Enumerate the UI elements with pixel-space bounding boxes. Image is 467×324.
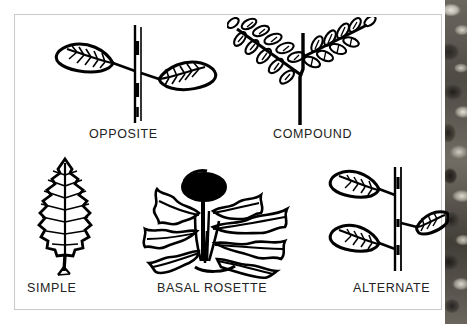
simple-leaf-drawing [19, 155, 115, 277]
illustration-page: OPPOSITE [0, 0, 467, 324]
photo-strip [445, 0, 467, 324]
caption-opposite: OPPOSITE [89, 127, 158, 141]
caption-alternate: ALTERNATE [353, 281, 430, 295]
alternate-leaves-drawing [323, 163, 449, 275]
caption-basal-rosette: BASAL ROSETTE [157, 281, 267, 295]
compound-leaf-drawing [227, 17, 377, 129]
opposite-leaves-drawing [53, 21, 223, 127]
caption-compound: COMPOUND [273, 127, 352, 141]
basal-rosette-drawing [137, 161, 301, 279]
illustration-plate: OPPOSITE [14, 14, 442, 310]
caption-simple: SIMPLE [27, 281, 76, 295]
